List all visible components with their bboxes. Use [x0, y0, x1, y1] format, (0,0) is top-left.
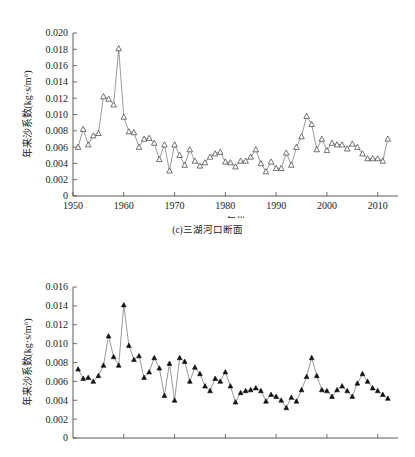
data-point-marker: [96, 130, 102, 135]
y-tick-label: 0.010: [46, 109, 69, 120]
data-point-marker: [126, 129, 132, 134]
x-tick-label: 2010: [368, 200, 388, 211]
data-point-marker: [116, 363, 121, 367]
series-line: [78, 305, 388, 408]
y-axis-title: 年来沙系数(kg·s/m⁶): [21, 71, 34, 159]
data-point-marker: [187, 147, 193, 152]
data-point-marker: [314, 373, 319, 377]
data-point-marker: [116, 46, 122, 51]
y-tick-label: 0.012: [46, 93, 69, 104]
x-tick-label: 2000: [317, 200, 337, 211]
data-point-marker: [85, 142, 91, 147]
y-tick-label: 0.014: [46, 300, 69, 311]
data-point-marker: [319, 387, 324, 391]
data-point-marker: [126, 343, 131, 347]
data-point-marker: [279, 398, 284, 402]
y-tick-label: 0.016: [46, 281, 69, 292]
data-point-marker: [289, 162, 295, 167]
data-point-marker: [304, 374, 309, 378]
data-point-marker: [167, 168, 173, 173]
figure-sediment-coefficient: 00.0020.0040.0060.0080.0100.0120.0140.01…: [0, 0, 415, 457]
data-point-marker: [309, 355, 314, 359]
data-point-marker: [385, 396, 390, 400]
data-point-marker: [223, 369, 228, 373]
data-point-marker: [76, 367, 81, 371]
x-tick-label: 1990: [266, 200, 286, 211]
data-point-marker: [289, 395, 294, 399]
data-point-marker: [96, 373, 101, 377]
y-tick-label: 0.008: [46, 125, 69, 136]
data-point-marker: [340, 384, 345, 388]
data-point-marker: [192, 158, 198, 163]
data-point-marker: [137, 353, 142, 357]
data-point-marker: [172, 398, 177, 402]
data-point-marker: [350, 141, 356, 146]
data-point-marker: [218, 149, 224, 154]
data-point-marker: [132, 357, 137, 361]
series-line: [78, 48, 388, 171]
data-point-marker: [182, 162, 188, 167]
data-point-marker: [380, 392, 385, 396]
x-tick-label: 1960: [114, 200, 134, 211]
data-point-marker: [233, 400, 238, 404]
data-point-marker: [177, 152, 183, 157]
data-point-marker: [314, 147, 320, 152]
data-point-marker: [248, 154, 254, 159]
data-point-marker: [121, 114, 127, 119]
y-tick-label: 0.002: [46, 414, 69, 425]
data-point-marker: [385, 136, 391, 141]
data-point-marker: [172, 142, 178, 147]
data-point-marker: [152, 355, 157, 359]
data-point-marker: [121, 302, 126, 306]
data-point-marker: [299, 134, 305, 139]
y-tick-label: 0.012: [46, 319, 69, 330]
data-point-marker: [294, 144, 300, 149]
panel-top-svg: 00.0020.0040.0060.0080.0100.0120.0140.01…: [0, 0, 415, 218]
data-point-marker: [193, 365, 198, 369]
data-point-marker: [106, 96, 112, 101]
y-axis-title: 年来沙系数(kg·s/m⁶): [21, 319, 34, 407]
data-point-marker: [91, 133, 97, 138]
data-point-marker: [253, 147, 259, 152]
data-point-marker: [157, 156, 163, 161]
data-point-marker: [106, 334, 111, 338]
data-point-marker: [324, 147, 330, 152]
data-point-marker: [263, 169, 269, 174]
data-point-marker: [284, 150, 290, 155]
x-tick-label: 1970: [165, 200, 185, 211]
data-point-marker: [355, 144, 361, 149]
data-point-marker: [136, 144, 142, 149]
y-tick-label: 0.004: [46, 395, 69, 406]
data-point-marker: [101, 94, 107, 99]
data-point-marker: [147, 369, 152, 373]
data-point-marker: [355, 381, 360, 385]
data-point-marker: [258, 161, 264, 166]
axis-spines: [73, 33, 398, 196]
y-tick-label: 0: [63, 432, 68, 443]
data-point-marker: [360, 371, 365, 375]
panel-bottom-svg: 00.0020.0040.0060.0080.0100.0120.0140.01…: [0, 240, 415, 457]
data-point-marker: [329, 140, 335, 145]
data-point-marker: [375, 388, 380, 392]
y-tick-label: 0.016: [46, 60, 69, 71]
data-point-marker: [319, 136, 325, 141]
chart-panel-bottom: 00.0020.0040.0060.0080.0100.0120.0140.01…: [0, 240, 415, 457]
data-point-marker: [111, 354, 116, 358]
data-point-marker: [223, 159, 229, 164]
data-point-marker: [177, 355, 182, 359]
data-point-marker: [268, 159, 274, 164]
x-tick-label: 1980: [215, 200, 235, 211]
axis-spines: [73, 287, 398, 438]
data-point-marker: [167, 361, 172, 365]
data-point-marker: [101, 363, 106, 367]
data-point-marker: [146, 135, 152, 140]
chart-panel-top: 00.0020.0040.0060.0080.0100.0120.0140.01…: [0, 0, 415, 218]
data-point-marker: [182, 359, 187, 363]
data-point-marker: [86, 375, 91, 379]
x-axis-title: 年份: [226, 215, 246, 218]
y-tick-label: 0.002: [46, 174, 69, 185]
data-point-marker: [218, 379, 223, 383]
data-point-marker: [299, 387, 304, 391]
figure-caption-c: (c)三湖河口断面: [0, 222, 415, 236]
y-tick-label: 0.006: [46, 142, 69, 153]
